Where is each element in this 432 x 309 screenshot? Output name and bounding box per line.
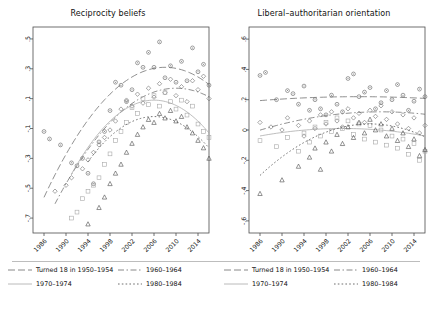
data-point-diamond [324, 122, 328, 126]
data-point-triangle [412, 137, 416, 141]
x-tick-label: 2006 [142, 237, 158, 253]
data-point-triangle [417, 153, 421, 157]
data-point-square [385, 143, 389, 147]
data-point-diamond [69, 176, 73, 180]
x-tick-label: 1986 [32, 237, 48, 253]
data-point-triangle [119, 162, 123, 166]
data-point-diamond [395, 122, 399, 126]
data-point-square [114, 139, 118, 143]
data-point-circle [180, 59, 184, 63]
data-point-triangle [329, 149, 333, 153]
data-point-square [418, 158, 422, 162]
figure-root: Reciprocity beliefs .5.3.1-.1-.3-.5-.719… [0, 0, 432, 309]
data-point-square [125, 121, 129, 125]
legend-label: 1980–1984 [146, 280, 182, 288]
data-point-square [297, 149, 301, 153]
data-point-triangle [395, 138, 399, 142]
data-point-square [346, 119, 350, 123]
data-point-diamond [346, 107, 350, 111]
y-tick-label: -.4 [241, 186, 248, 194]
y-tick-label: .3 [25, 66, 32, 72]
data-point-circle [48, 137, 52, 141]
x-tick-label: 1994 [76, 237, 92, 253]
data-point-triangle [113, 171, 117, 175]
data-point-diamond [401, 113, 405, 117]
legend-label: 1960–1964 [362, 266, 398, 274]
data-point-diamond [53, 189, 57, 193]
data-point-diamond [201, 74, 205, 78]
data-point-square [163, 91, 167, 95]
data-point-square [70, 216, 74, 220]
data-point-diamond [335, 119, 339, 123]
data-point-diamond [384, 117, 388, 121]
data-point-square [407, 152, 411, 156]
plot-frame [249, 27, 425, 233]
data-point-circle [418, 87, 422, 91]
data-point-triangle [335, 132, 339, 136]
data-point-diamond [357, 111, 361, 115]
legend-label: Turned 18 in 1950–1954 [251, 266, 329, 274]
data-point-triangle [157, 111, 161, 115]
data-point-circle [368, 86, 372, 90]
data-point-diamond [168, 77, 172, 81]
data-point-circle [97, 140, 101, 144]
data-point-circle [341, 110, 345, 114]
plot-area-liberal: .6.4.20-.2-.4-.6198619901994199820022006… [216, 0, 432, 260]
data-point-circle [390, 98, 394, 102]
data-point-diamond [185, 99, 189, 103]
data-point-diamond [329, 110, 333, 114]
data-point-triangle [152, 120, 156, 124]
trend-line-circle [260, 97, 425, 101]
data-point-diamond [196, 87, 200, 91]
data-point-triangle [201, 146, 205, 150]
data-point-diamond [313, 126, 317, 130]
data-point-diamond [152, 95, 156, 99]
data-point-circle [379, 101, 383, 105]
data-point-square [313, 125, 317, 129]
data-point-circle [114, 80, 118, 84]
data-point-circle [130, 88, 134, 92]
data-point-triangle [196, 138, 200, 142]
data-point-triangle [368, 117, 372, 121]
data-point-square [185, 113, 189, 117]
trend-line-square [72, 100, 210, 174]
data-point-circle [407, 108, 411, 112]
y-tick-label: .1 [25, 96, 32, 102]
data-point-circle [258, 74, 262, 78]
data-point-diamond [285, 116, 289, 120]
data-point-circle [330, 93, 334, 97]
data-point-circle [141, 65, 145, 69]
data-point-square [108, 152, 112, 156]
data-point-triangle [108, 181, 112, 185]
legend-label: 1960–1964 [146, 266, 182, 274]
data-point-circle [385, 89, 389, 93]
data-point-diamond [280, 128, 284, 132]
data-point-triangle [280, 178, 284, 182]
data-point-square [335, 116, 339, 120]
x-tick-label: 1990 [54, 237, 70, 253]
data-point-circle [308, 108, 312, 112]
data-point-triangle [362, 131, 366, 135]
x-tick-label: 2010 [164, 237, 180, 253]
data-point-triangle [168, 108, 172, 112]
y-tick-label: -.1 [25, 124, 32, 132]
legend-right-svg: Turned 18 in 1950–19541960–19641970–1974… [216, 262, 432, 309]
data-point-square [119, 130, 123, 134]
y-tick-label: -.6 [241, 217, 248, 225]
y-tick-label: -.5 [25, 184, 32, 192]
data-point-diamond [302, 134, 306, 138]
data-point-diamond [258, 120, 262, 124]
legend-label: Turned 18 in 1950–1954 [35, 266, 113, 274]
data-point-circle [163, 76, 167, 80]
data-point-square [147, 103, 151, 107]
data-point-square [330, 130, 334, 134]
data-point-triangle [146, 117, 150, 121]
data-point-square [103, 162, 107, 166]
data-point-diamond [307, 119, 311, 123]
data-point-square [374, 140, 378, 144]
legend-left-svg: Turned 18 in 1950–19541960–19641970–1974… [0, 262, 216, 309]
y-tick-label: .4 [241, 66, 248, 72]
data-point-square [158, 104, 162, 108]
data-point-circle [335, 102, 339, 106]
data-point-diamond [146, 86, 150, 90]
